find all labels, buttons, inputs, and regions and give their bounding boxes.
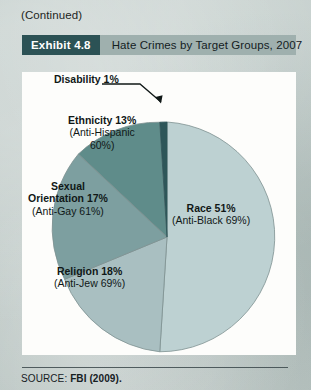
label-religion-line2: (Anti-Jew 69%) [54,277,125,289]
label-religion: Religion 18% (Anti-Jew 69%) [54,265,125,290]
label-ethnicity-line2: (Anti-Hispanic [68,126,136,138]
source-label: SOURCE: [21,373,67,384]
exhibit-number-badge: Exhibit 4.8 [22,35,100,55]
source-value: FBI (2009). [70,373,122,384]
label-sexual-orientation-line2: Orientation 17% [28,192,108,204]
label-race-line1: Race 51% [172,202,250,214]
disability-leader-line [102,84,163,104]
label-sexual-orientation-line1: Sexual [28,180,108,192]
exhibit-header-bar: Exhibit 4.8 Hate Crimes by Target Groups… [22,35,296,55]
footer-divider [22,367,288,368]
label-race-line2: (Anti-Black 69%) [172,214,250,226]
label-sexual-orientation-line3: (Anti-Gay 61%) [28,205,108,217]
label-religion-line1: Religion 18% [54,265,125,277]
pie-slice-race [160,122,275,352]
label-sexual-orientation: Sexual Orientation 17% (Anti-Gay 61%) [28,180,108,217]
label-ethnicity-line3: 60%) [68,139,136,151]
pie-chart-card: Disability 1% Ethnicity 13% (Anti-Hispan… [22,72,296,355]
label-race: Race 51% (Anti-Black 69%) [172,202,250,227]
source-note: SOURCE: FBI (2009). [21,373,122,384]
label-ethnicity: Ethnicity 13% (Anti-Hispanic 60%) [68,114,136,151]
exhibit-title: Hate Crimes by Target Groups, 2007 [100,35,302,55]
label-disability: Disability 1% [54,73,119,85]
continued-note: (Continued) [21,9,82,21]
label-ethnicity-line1: Ethnicity 13% [68,114,136,126]
